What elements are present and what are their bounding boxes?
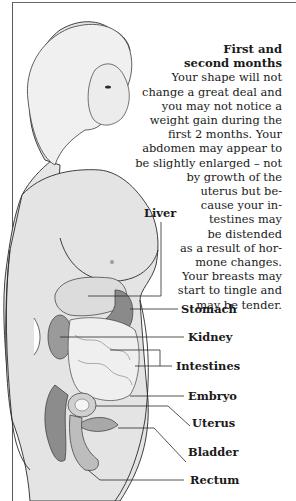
- body-line: start to tingle and: [117, 283, 282, 297]
- body-line: cause your in-: [117, 198, 282, 212]
- heading-line: second months: [117, 56, 282, 70]
- body-line: be distended: [117, 227, 282, 241]
- body-line: Your shape will not: [117, 70, 282, 84]
- body-line: change a great deal and: [117, 85, 282, 99]
- description-text-block: First and second months Your shape will …: [117, 42, 282, 312]
- body-line: you may not notice a: [117, 99, 282, 113]
- body-line: mone changes.: [117, 255, 282, 269]
- body-line: first 2 months. Your: [117, 127, 282, 141]
- label-liver: Liver: [144, 206, 176, 220]
- label-kidney: Kidney: [188, 330, 232, 344]
- section-heading: First and second months: [117, 42, 282, 70]
- label-bladder: Bladder: [188, 445, 239, 459]
- body-line: Your breasts may: [117, 269, 282, 283]
- label-embryo: Embryo: [188, 389, 237, 403]
- body-line: by growth of the: [117, 170, 282, 184]
- body-line: as a result of hor-: [117, 241, 282, 255]
- label-intestines: Intestines: [176, 359, 240, 373]
- body-line: be slightly enlarged – not: [117, 156, 282, 170]
- body-line: weight gain during the: [117, 113, 282, 127]
- label-rectum: Rectum: [190, 473, 239, 487]
- body-line: uterus but be-: [117, 184, 282, 198]
- label-uterus: Uterus: [192, 416, 235, 430]
- heading-line: First and: [117, 42, 282, 56]
- label-stomach: Stomach: [181, 302, 237, 316]
- body-line: testines may: [117, 212, 282, 226]
- body-line: abdomen may appear to: [117, 141, 282, 155]
